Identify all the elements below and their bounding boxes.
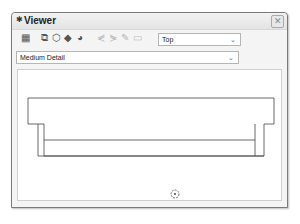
- group-icon[interactable]: ▭: [132, 33, 142, 43]
- origin-marker-icon: [171, 190, 179, 198]
- close-icon: ✕: [274, 16, 282, 26]
- window-title: Viewer: [24, 15, 56, 26]
- align-right-icon[interactable]: ⋟: [108, 33, 118, 43]
- render-icon[interactable]: ◕: [75, 33, 85, 43]
- visibility-graphics-icon[interactable]: ▦: [20, 33, 30, 43]
- view-select[interactable]: Top ⌄: [158, 33, 241, 46]
- align-left-icon[interactable]: ⋞: [96, 33, 106, 43]
- detail-level-select[interactable]: Medium Detail ⌄: [16, 51, 239, 64]
- drawing-canvas[interactable]: [17, 69, 282, 201]
- copy-view-icon[interactable]: ⧉: [39, 33, 49, 43]
- pin-icon: ✱: [16, 15, 23, 24]
- chevron-down-icon: ⌄: [228, 52, 234, 63]
- close-button[interactable]: ✕: [271, 15, 284, 28]
- title-bar[interactable]: ✱ Viewer ✕: [12, 13, 287, 30]
- 3d-view-icon[interactable]: ⬡: [51, 33, 61, 43]
- edit-icon[interactable]: ✎: [120, 33, 130, 43]
- shaded-view-icon[interactable]: ◆: [63, 33, 73, 43]
- section-drawing: [18, 70, 281, 200]
- detail-level-value: Medium Detail: [20, 54, 65, 61]
- toolbar: ▦ ⧉ ⬡ ◆ ◕ ⋞ ⋟ ✎ ▭ Top ⌄: [16, 32, 283, 48]
- chevron-down-icon: ⌄: [230, 34, 236, 45]
- viewer-window: ✱ Viewer ✕ ▦ ⧉ ⬡ ◆ ◕ ⋞ ⋟ ✎ ▭ Top ⌄ Mediu…: [11, 12, 288, 208]
- view-select-value: Top: [162, 36, 173, 43]
